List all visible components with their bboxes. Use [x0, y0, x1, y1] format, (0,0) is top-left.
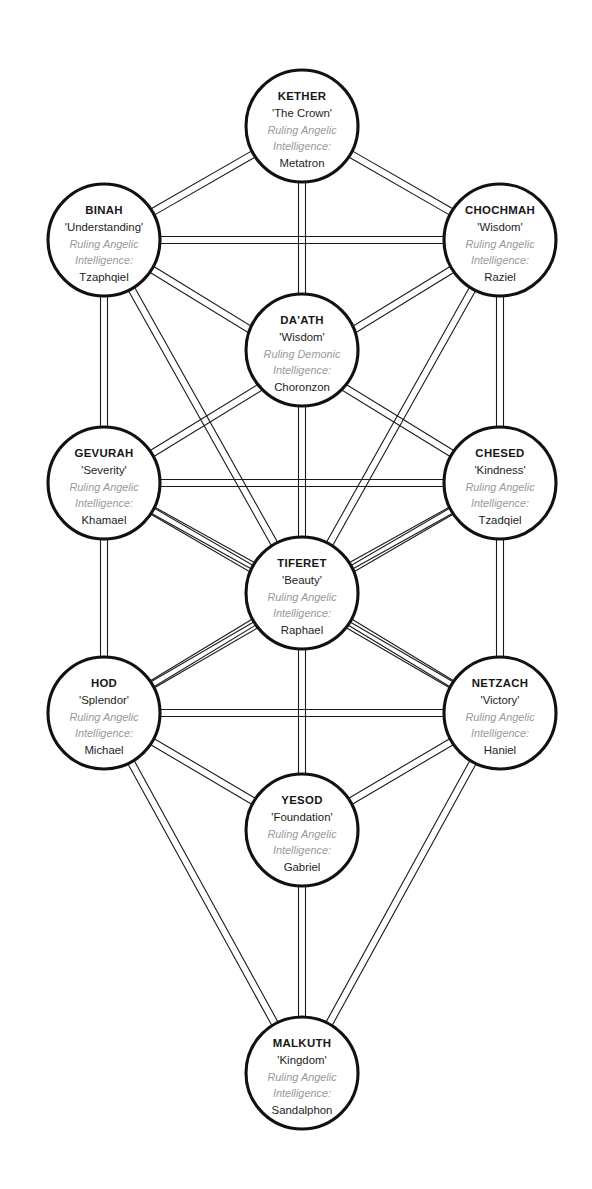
sephirah-daath[interactable]: DA'ATH'Wisdom'Ruling DemonicIntelligence… — [246, 294, 358, 406]
sephirah-ruling-line1-tiferet: Ruling Angelic — [267, 591, 337, 603]
sephirah-title-netzach: 'Victory' — [481, 694, 520, 706]
sephirah-ruling-line2-tiferet: Intelligence: — [273, 607, 331, 619]
sephirah-name-chochmah: CHOCHMAH — [465, 204, 535, 216]
sephirah-title-chochmah: 'Wisdom' — [477, 221, 523, 233]
sephirah-binah[interactable]: BINAH'Understanding'Ruling AngelicIntell… — [48, 184, 160, 296]
sephirah-ruling-line1-hod: Ruling Angelic — [69, 711, 139, 723]
sephirah-being-daath: Choronzon — [274, 381, 330, 393]
sephirah-ruling-line1-chesed: Ruling Angelic — [465, 481, 535, 493]
sephirah-name-netzach: NETZACH — [472, 677, 529, 689]
sephirah-name-binah: BINAH — [85, 204, 123, 216]
sephirah-being-kether: Metatron — [280, 157, 325, 169]
sephirah-name-chesed: CHESED — [475, 447, 524, 459]
sephirah-ruling-line2-yesod: Intelligence: — [273, 844, 331, 856]
sephirah-hod[interactable]: HOD'Splendor'Ruling AngelicIntelligence:… — [48, 657, 160, 769]
sephirah-ruling-line2-daath: Intelligence: — [273, 364, 331, 376]
sephirah-ruling-line2-malkuth: Intelligence: — [273, 1087, 331, 1099]
tree-of-life-diagram: KETHER'The Crown'Ruling AngelicIntellige… — [0, 0, 592, 1189]
sephirah-tiferet[interactable]: TIFERET'Beauty'Ruling AngelicIntelligenc… — [246, 537, 358, 649]
sephirah-ruling-line1-daath: Ruling Demonic — [264, 348, 341, 360]
sephirah-name-gevurah: GEVURAH — [74, 447, 133, 459]
sephirah-malkuth[interactable]: MALKUTH'Kingdom'Ruling AngelicIntelligen… — [246, 1017, 358, 1129]
sephirah-ruling-line2-kether: Intelligence: — [273, 140, 331, 152]
sephirah-title-chesed: 'Kindness' — [474, 464, 525, 476]
sephirah-title-daath: 'Wisdom' — [279, 331, 325, 343]
sephirah-title-gevurah: 'Severity' — [81, 464, 127, 476]
sephirah-being-malkuth: Sandalphon — [272, 1104, 333, 1116]
sephirah-ruling-line2-chesed: Intelligence: — [471, 497, 529, 509]
sephirah-being-netzach: Haniel — [484, 744, 516, 756]
sephirah-title-yesod: 'Foundation' — [271, 811, 332, 823]
sephirah-name-tiferet: TIFERET — [277, 557, 327, 569]
sephirah-ruling-line1-chochmah: Ruling Angelic — [465, 238, 535, 250]
sephirah-ruling-line2-netzach: Intelligence: — [471, 727, 529, 739]
sephirah-name-daath: DA'ATH — [280, 314, 324, 326]
sephirah-title-malkuth: 'Kingdom' — [277, 1054, 326, 1066]
sephirah-name-yesod: YESOD — [281, 794, 322, 806]
sephirah-title-tiferet: 'Beauty' — [282, 574, 322, 586]
sephirah-gevurah[interactable]: GEVURAH'Severity'Ruling AngelicIntellige… — [48, 427, 160, 539]
sephirah-being-chochmah: Raziel — [484, 271, 516, 283]
sephirah-name-hod: HOD — [91, 677, 117, 689]
sephirah-name-malkuth: MALKUTH — [273, 1037, 331, 1049]
sephirah-title-hod: 'Splendor' — [79, 694, 129, 706]
sephirah-ruling-line2-hod: Intelligence: — [75, 727, 133, 739]
sephirah-ruling-line1-gevurah: Ruling Angelic — [69, 481, 139, 493]
sephirah-netzach[interactable]: NETZACH'Victory'Ruling AngelicIntelligen… — [444, 657, 556, 769]
sephirah-title-kether: 'The Crown' — [272, 107, 332, 119]
sephirah-ruling-line2-gevurah: Intelligence: — [75, 497, 133, 509]
sephirah-ruling-line1-malkuth: Ruling Angelic — [267, 1071, 337, 1083]
sephirah-chochmah[interactable]: CHOCHMAH'Wisdom'Ruling AngelicIntelligen… — [444, 184, 556, 296]
sephirah-ruling-line1-kether: Ruling Angelic — [267, 124, 337, 136]
sephirah-ruling-line2-chochmah: Intelligence: — [471, 254, 529, 266]
sephirah-ruling-line1-binah: Ruling Angelic — [69, 238, 139, 250]
sephirah-being-hod: Michael — [84, 744, 123, 756]
sephirah-ruling-line2-binah: Intelligence: — [75, 254, 133, 266]
sephirah-chesed[interactable]: CHESED'Kindness'Ruling AngelicIntelligen… — [444, 427, 556, 539]
sephirah-kether[interactable]: KETHER'The Crown'Ruling AngelicIntellige… — [246, 70, 358, 182]
sephirah-yesod[interactable]: YESOD'Foundation'Ruling AngelicIntellige… — [246, 774, 358, 886]
sephirah-being-yesod: Gabriel — [284, 861, 321, 873]
sephirah-ruling-line1-yesod: Ruling Angelic — [267, 828, 337, 840]
sephirah-being-binah: Tzaphqiel — [79, 271, 128, 283]
sephirah-ruling-line1-netzach: Ruling Angelic — [465, 711, 535, 723]
sephirah-being-gevurah: Khamael — [82, 514, 127, 526]
sephirah-title-binah: 'Understanding' — [65, 221, 143, 233]
sephirah-name-kether: KETHER — [278, 90, 327, 102]
sephirah-being-chesed: Tzadqiel — [478, 514, 521, 526]
sephirah-being-tiferet: Raphael — [281, 624, 323, 636]
